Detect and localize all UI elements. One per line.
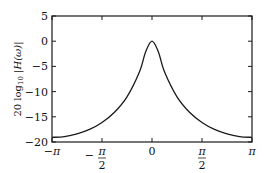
x-tick-label: 0 bbox=[149, 145, 156, 158]
y-axis-label: 20 log10 |H(ω)| bbox=[12, 41, 25, 116]
magnitude-response-line bbox=[52, 41, 252, 137]
y-tick-label: 5 bbox=[41, 10, 48, 23]
y-axis-ticks: 50−5−10−15−20 bbox=[25, 10, 252, 149]
x-axis-ticks: −π−π20π2π bbox=[44, 16, 257, 172]
x-tick-label: −π bbox=[44, 145, 61, 158]
y-label-subscript: 10 bbox=[17, 76, 25, 85]
chart-figure: 50−5−10−15−20 −π−π20π2π 20 log10 |H(ω)| bbox=[0, 0, 267, 173]
y-label-suffix: |H(ω)| bbox=[12, 41, 24, 76]
y-tick-label: 0 bbox=[41, 35, 48, 48]
x-tick-label: −π2 bbox=[85, 145, 107, 172]
plot-frame bbox=[52, 16, 252, 142]
svg-text:−: − bbox=[85, 149, 94, 162]
svg-text:π: π bbox=[197, 145, 206, 158]
x-tick-label: π bbox=[247, 145, 256, 158]
svg-text:2: 2 bbox=[98, 159, 105, 172]
y-tick-label: −5 bbox=[32, 60, 48, 73]
y-label-prefix: 20 log bbox=[12, 84, 23, 116]
svg-text:2: 2 bbox=[199, 159, 206, 172]
y-tick-label: −15 bbox=[25, 111, 48, 124]
y-tick-label: −10 bbox=[25, 86, 48, 99]
svg-text:π: π bbox=[97, 145, 106, 158]
x-tick-label: π2 bbox=[197, 145, 206, 172]
